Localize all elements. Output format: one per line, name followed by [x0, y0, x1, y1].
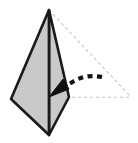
- figure-container: Pyramid fold step diagram: [0, 0, 138, 143]
- pyramid-fold-diagram: Pyramid fold step diagram: [0, 0, 138, 143]
- figure-background: [0, 0, 138, 143]
